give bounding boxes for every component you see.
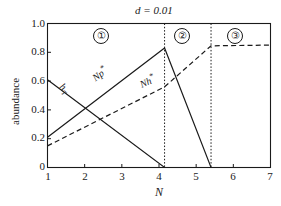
tick-marks [48, 52, 234, 167]
plot-canvas [0, 0, 281, 206]
axis-frame [48, 24, 271, 168]
region-dividers [165, 24, 211, 168]
series-lines [48, 45, 271, 167]
chart-figure: d = 0.01 abundance N 1.0 0.8 0.6 0.4 0.2… [0, 0, 281, 206]
